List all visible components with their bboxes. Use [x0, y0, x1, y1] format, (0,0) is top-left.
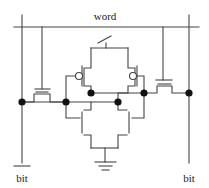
junction-dot [140, 89, 147, 96]
wire-segment [144, 86, 189, 93]
labels: word bit bit [14, 10, 195, 184]
wire-segment [84, 48, 91, 93]
wire-segment [98, 36, 111, 43]
junction-dot [62, 98, 69, 105]
circuit-canvas: word bit bit [0, 0, 209, 188]
pmos-bubble-icon [76, 73, 83, 80]
bit-label: bit [183, 172, 195, 184]
wire-segment [22, 94, 66, 102]
wire-segment [84, 102, 91, 110]
bit-bar-label: bit [16, 172, 28, 184]
word-label: word [94, 10, 117, 22]
junction-dot [185, 89, 192, 96]
pmos-bubble-icon [130, 73, 137, 80]
wire-segment [66, 76, 75, 102]
junction-dot [87, 89, 94, 96]
wire-segment [132, 93, 144, 118]
wire-segment [84, 135, 91, 148]
wire-segment [118, 135, 127, 148]
junction-dot [18, 98, 25, 105]
wires [22, 27, 189, 170]
pmos-bubbles [76, 73, 137, 80]
junction-dot [114, 98, 121, 105]
